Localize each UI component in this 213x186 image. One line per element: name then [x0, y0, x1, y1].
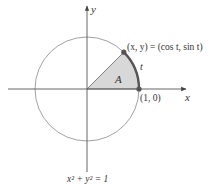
- area-label: A: [114, 73, 122, 85]
- point-1-0: [136, 86, 141, 91]
- origin-point-label: (1, 0): [140, 93, 161, 104]
- x-axis-label: x: [184, 91, 190, 103]
- circle-equation: x² + y² = 1: [66, 174, 108, 184]
- point-label: (x, y) = (cos t, sin t): [127, 42, 203, 53]
- sector-area-a: [87, 52, 139, 89]
- y-axis-label: y: [90, 3, 96, 15]
- point-cos-sin: [121, 50, 126, 55]
- arc-label: t: [140, 61, 143, 72]
- unit-circle-diagram: y x (x, y) = (cos t, sin t) (1, 0) t A x…: [0, 0, 213, 186]
